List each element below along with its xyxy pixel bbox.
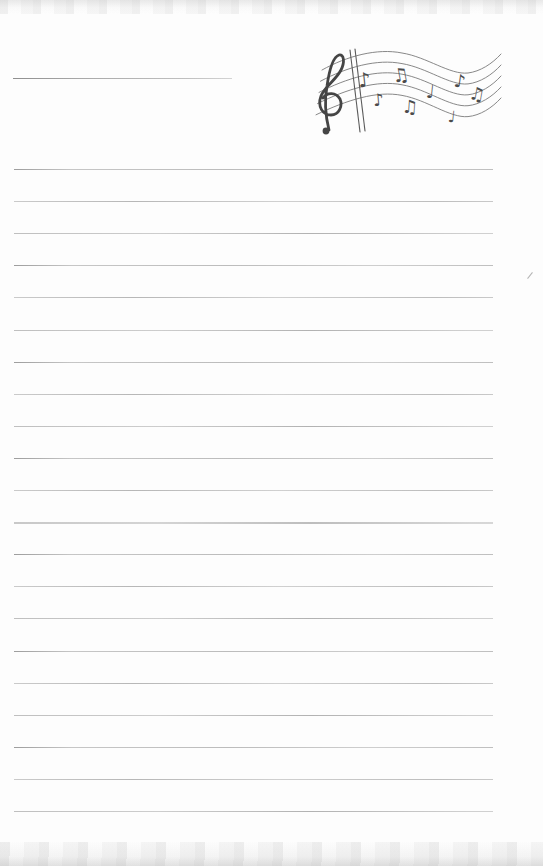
ruled-line: [14, 715, 493, 716]
ruled-line: [14, 522, 493, 524]
ruled-line: [14, 747, 493, 748]
eighth-note-icon: ♪: [372, 89, 385, 110]
ruled-line: [14, 233, 493, 234]
ruled-line: [14, 586, 493, 587]
eighth-note-icon: ♪: [453, 70, 467, 92]
ruled-line: [14, 297, 493, 298]
ruled-line: [14, 426, 493, 427]
ruled-line: [14, 779, 493, 780]
title-underline: [13, 78, 232, 79]
musical-notes-decoration: ♪ ♫ ♪ ♫ ♩ ♪ ♫ ♩: [302, 46, 510, 154]
ruled-line: [14, 169, 493, 170]
ruled-line: [14, 554, 493, 555]
ruled-line: [14, 683, 493, 684]
ruled-line: [14, 394, 493, 395]
ruled-line: [14, 811, 493, 812]
ruled-line: [14, 458, 493, 459]
beamed-notes-icon: ♫: [401, 96, 419, 118]
treble-clef-icon: [320, 55, 344, 134]
ruled-line: [14, 201, 493, 202]
quarter-note-icon: ♩: [425, 81, 436, 103]
eighth-note-icon: ♪: [357, 67, 372, 92]
ruled-line: [14, 618, 493, 619]
ruled-line: [14, 490, 493, 491]
beamed-notes-icon: ♫: [390, 62, 411, 87]
beamed-notes-icon: ♫: [467, 82, 487, 105]
ruled-line: [14, 362, 493, 363]
paper-edge-texture-bottom: [0, 842, 543, 866]
ruled-line: [14, 265, 493, 266]
paper-edge-texture-top: [0, 0, 543, 14]
stray-mark: [527, 272, 533, 279]
notepad-page: ♪ ♫ ♪ ♫ ♩ ♪ ♫ ♩: [0, 0, 543, 866]
ruled-line: [14, 651, 493, 652]
ruled-line: [14, 330, 493, 331]
quarter-note-icon: ♩: [447, 107, 456, 127]
